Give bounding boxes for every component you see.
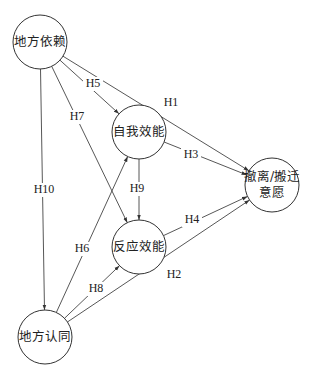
- node-label: 地方认同: [19, 329, 71, 344]
- edge-label-h8: H8: [89, 281, 104, 295]
- edge-labels-layer: H1H2H3H4H5H6H7H8H9H10: [31, 76, 203, 296]
- edge-label-h9: H9: [130, 181, 145, 195]
- edge-label-h1: H1: [164, 95, 179, 109]
- edge-label-h6: H6: [75, 241, 90, 255]
- node-label: 自我效能: [113, 124, 165, 139]
- edge-label-h3: H3: [184, 147, 199, 161]
- edge-label-h2: H2: [167, 267, 182, 281]
- node-place-dependence: 地方依赖: [13, 15, 67, 69]
- node-label: 意愿: [259, 185, 285, 200]
- path-model-diagram: H1H2H3H4H5H6H7H8H9H10 地方依赖自我效能反应效能撤离/搬迁意…: [0, 0, 322, 381]
- node-relocation-intention: 撤离/搬迁意愿: [244, 158, 300, 212]
- node-label: 地方依赖: [14, 34, 66, 49]
- node-label: 反应效能: [113, 239, 165, 254]
- node-self-efficacy: 自我效能: [112, 105, 166, 159]
- edge-label-h7: H7: [70, 109, 85, 123]
- edge-label-h5: H5: [86, 76, 101, 90]
- edge-label-h10: H10: [34, 182, 55, 196]
- node-label: 撤离/搬迁: [244, 169, 300, 184]
- edge-h3: [164, 142, 247, 175]
- edge-label-h4: H4: [185, 212, 200, 226]
- node-place-identity: 地方认同: [18, 310, 72, 364]
- node-response-efficacy: 反应效能: [112, 220, 166, 274]
